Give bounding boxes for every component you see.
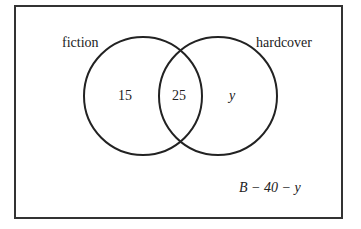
intersection-value: 25 bbox=[172, 88, 186, 103]
outside-value: B − 40 − y bbox=[239, 180, 301, 195]
venn-diagram: fiction hardcover 15 25 y B − 40 − y bbox=[0, 0, 361, 229]
fiction-only-value: 15 bbox=[118, 88, 132, 103]
hardcover-label: hardcover bbox=[256, 35, 312, 50]
fiction-label: fiction bbox=[62, 35, 99, 50]
hardcover-only-value: y bbox=[227, 88, 236, 103]
